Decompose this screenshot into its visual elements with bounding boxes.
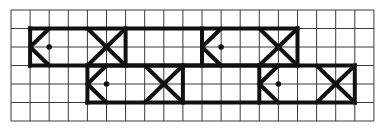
head-lower-diagonal	[87, 84, 106, 103]
eye-dot-icon	[46, 44, 52, 50]
head-upper-diagonal	[202, 29, 221, 48]
eye-dot-icon	[218, 44, 224, 50]
eye-dot-icon	[276, 81, 282, 87]
head-lower-diagonal	[30, 47, 49, 66]
head-upper-diagonal	[30, 29, 49, 48]
eye-dot-icon	[104, 81, 110, 87]
head-upper-diagonal	[87, 66, 106, 85]
head-lower-diagonal	[202, 47, 221, 66]
head-lower-diagonal	[259, 84, 278, 103]
grid-diagram	[0, 0, 386, 132]
pattern-bands	[30, 29, 355, 103]
head-upper-diagonal	[259, 66, 278, 85]
